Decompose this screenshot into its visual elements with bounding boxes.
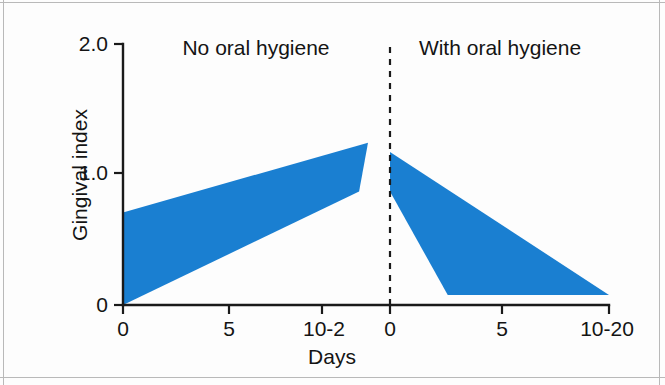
data-band-with-oral-hygiene — [390, 152, 609, 295]
panel-title-with-oral-hygiene: With oral hygiene — [419, 36, 581, 60]
x-tick-label-right-5: 5 — [496, 317, 508, 341]
data-band-no-oral-hygiene — [123, 143, 368, 305]
data-band-group — [123, 143, 609, 305]
panel-title-no-oral-hygiene: No oral hygiene — [182, 36, 329, 60]
x-tick-label-left-10-2: 10-2 — [303, 317, 345, 341]
x-tick-label-right-10-20: 10-20 — [580, 317, 634, 341]
plot-area: 2.0 1.0 0 0 5 10-2 0 5 10-20 Days Gingiv… — [0, 0, 665, 385]
y-axis-title: Gingival index — [68, 109, 92, 241]
y-tick-label-0: 0 — [64, 293, 108, 317]
x-tick-label-left-5: 5 — [223, 317, 235, 341]
chart-figure: 2.0 1.0 0 0 5 10-2 0 5 10-20 Days Gingiv… — [0, 0, 665, 385]
x-axis-title: Days — [308, 345, 356, 369]
x-tick-label-right-0: 0 — [384, 317, 396, 341]
x-tick-label-left-0: 0 — [117, 317, 129, 341]
y-tick-label-2: 2.0 — [64, 32, 108, 56]
